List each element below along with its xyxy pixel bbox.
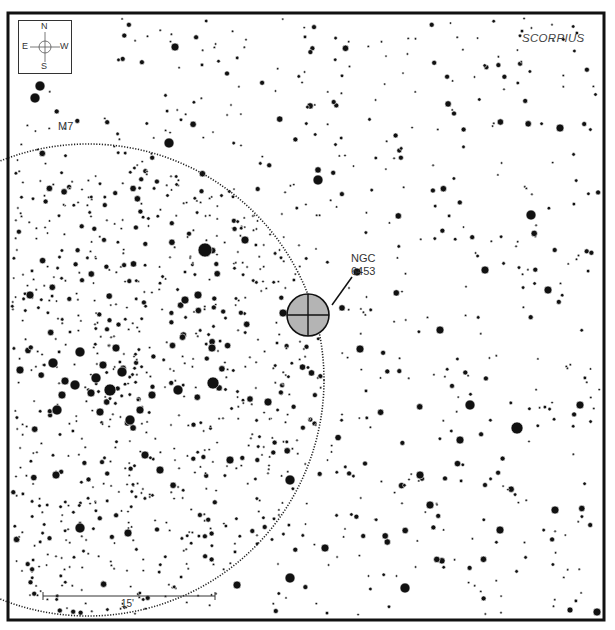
m7-label: M7: [58, 120, 73, 132]
ngc6453-symbol: [287, 294, 329, 336]
compass-east: E: [22, 41, 28, 51]
ngc6453-label-line2: 6453: [351, 265, 375, 277]
compass-north: N: [41, 21, 48, 31]
m7-cluster-outline: [0, 144, 324, 616]
compass-rose: N S E W: [18, 20, 72, 74]
scale-bar-label: 15': [121, 598, 134, 610]
compass-south: S: [41, 61, 47, 71]
ngc6453-label-line1: NGC: [351, 252, 375, 264]
ngc6453-leader-line: [332, 277, 352, 305]
constellation-label: SCORPIUS: [522, 32, 584, 44]
star-chart: [0, 0, 615, 630]
compass-west: W: [60, 41, 69, 51]
